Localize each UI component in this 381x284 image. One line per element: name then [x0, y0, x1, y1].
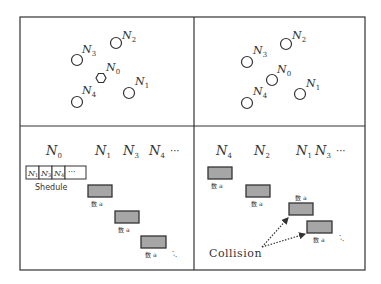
node-n1: N1	[124, 75, 150, 99]
data-packet-3-collided: 数 a	[289, 194, 313, 215]
collision-label: Collision	[209, 247, 262, 260]
node-n4: N4	[72, 84, 97, 108]
panel-bottom-right-collision: N4 N2 N1 N3 ··· 数 a 数 a 数 a 数 a ·.. Coll…	[208, 143, 348, 260]
data-packet-3: 数 a	[141, 236, 166, 259]
panel-bottom-left-scheduled: N0 N1 N3 N4 ··· N1 N3 N4 ··· Shedule 数 a…	[26, 143, 181, 259]
schedule-table: N1 N3 N4 ··· Shedule	[26, 166, 86, 192]
trailing-dots: ·..	[336, 232, 347, 244]
trailing-dots: ·..	[169, 248, 180, 260]
node-n3: N3	[242, 44, 268, 68]
svg-text:N2: N2	[291, 29, 306, 44]
svg-text:N3: N3	[252, 44, 267, 59]
node-n2: N2	[111, 29, 137, 49]
ellipsis: ···	[170, 145, 180, 156]
node-n3: N3	[72, 43, 97, 66]
node-n0-hexagon: N0	[96, 61, 120, 83]
svg-text:N1: N1	[295, 143, 312, 160]
svg-text:N2: N2	[253, 143, 270, 160]
svg-text:N4: N4	[252, 85, 268, 100]
data-packet-4-collided: 数 a	[307, 221, 332, 244]
svg-text:N4: N4	[148, 143, 165, 160]
ellipsis: ···	[336, 145, 346, 156]
data-packet-2: 数 a	[115, 211, 139, 234]
svg-text:N4: N4	[81, 84, 97, 99]
svg-text:数 a: 数 a	[145, 251, 157, 259]
svg-text:N3: N3	[122, 143, 139, 160]
panel-top-left-topology: N2 N3 N0 N1 N4	[72, 29, 150, 108]
svg-text:数 a: 数 a	[313, 236, 325, 244]
panel-top-right-topology: N2 N3 N0 N1 N4	[242, 29, 321, 109]
svg-text:数 a: 数 a	[91, 200, 103, 208]
node-n1: N1	[295, 77, 321, 100]
svg-text:N0: N0	[45, 143, 62, 160]
svg-text:数 a: 数 a	[211, 182, 223, 190]
schedule-label: Shedule	[35, 183, 67, 192]
svg-text:数 a: 数 a	[118, 226, 130, 234]
data-packet-1: 数 a	[208, 167, 232, 190]
svg-text:N1: N1	[134, 75, 149, 90]
data-packet-2: 数 a	[246, 185, 270, 208]
node-n2: N2	[281, 29, 307, 50]
svg-text:N0: N0	[276, 63, 291, 78]
svg-text:N1: N1	[305, 77, 320, 92]
svg-text:N2: N2	[121, 29, 136, 44]
timeline-header: N0 N1 N3 N4 ···	[45, 143, 180, 160]
diagram-canvas: N2 N3 N0 N1 N4 N2 N3 N0	[0, 0, 381, 284]
svg-text:数 a: 数 a	[295, 194, 307, 202]
data-packet-1: 数 a	[88, 185, 112, 208]
svg-text:N3: N3	[314, 143, 331, 160]
svg-text:···: ···	[68, 168, 76, 177]
collision-arrows	[262, 218, 305, 247]
node-n0: N0	[267, 63, 292, 86]
node-n4: N4	[242, 85, 268, 109]
svg-text:数 a: 数 a	[251, 200, 263, 208]
svg-text:N3: N3	[81, 43, 96, 58]
timeline-header: N4 N2 N1 N3 ···	[215, 143, 346, 160]
svg-text:N4: N4	[215, 143, 232, 160]
svg-text:N1: N1	[94, 143, 111, 160]
svg-text:N0: N0	[105, 61, 120, 76]
